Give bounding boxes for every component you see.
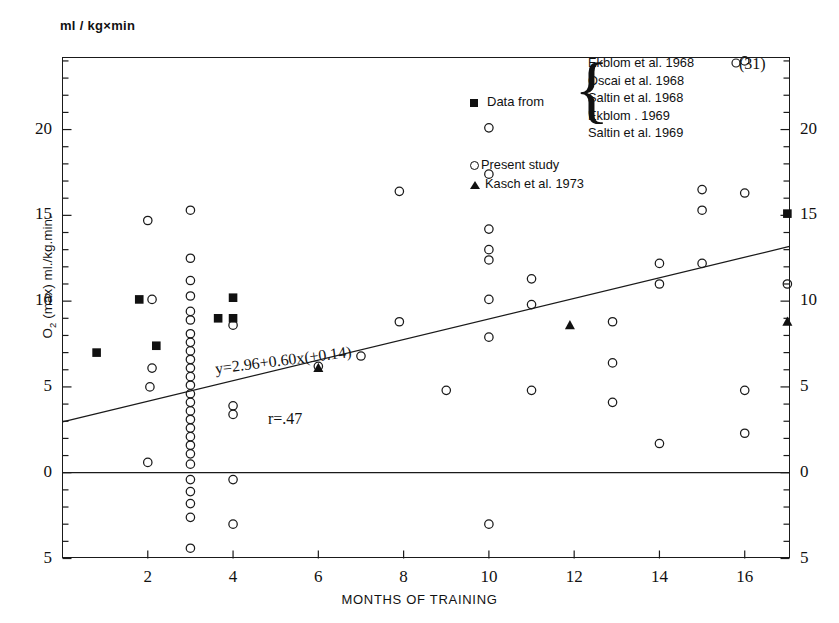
- data-point: [527, 300, 535, 308]
- y-tick-label-left: 5: [18, 548, 52, 568]
- data-point: [698, 259, 706, 267]
- y-tick-label-right: 15: [800, 204, 834, 224]
- data-point: [485, 225, 493, 233]
- y-tick-label-left: 5: [18, 376, 52, 396]
- data-point: [186, 398, 194, 406]
- data-point: [186, 276, 194, 284]
- figure-root: ml / kg×min O2 (max) ml./kg.min. MONTHS …: [0, 0, 839, 623]
- data-point: [148, 295, 156, 303]
- data-point: [655, 439, 663, 447]
- data-point: [186, 499, 194, 507]
- data-point: [698, 185, 706, 193]
- y-tick-label-right: 10: [800, 290, 834, 310]
- data-point: [186, 347, 194, 355]
- y-tick-label-left: 20: [18, 119, 52, 139]
- x-tick-label: 16: [725, 567, 765, 587]
- y-tick-label-right: 5: [800, 548, 834, 568]
- data-point: [135, 295, 144, 304]
- x-tick-label: 14: [639, 567, 679, 587]
- y-tick-label-right: 0: [800, 462, 834, 482]
- data-point: [186, 487, 194, 495]
- data-point: [698, 206, 706, 214]
- data-point: [485, 295, 493, 303]
- data-point: [485, 170, 493, 178]
- data-point: [152, 341, 161, 350]
- x-tick-label: 10: [469, 567, 509, 587]
- axis-ticks: [63, 61, 790, 559]
- data-point: [608, 398, 616, 406]
- x-tick-label: 12: [554, 567, 594, 587]
- data-point: [186, 372, 194, 380]
- data-point: [186, 381, 194, 389]
- data-point: [186, 475, 194, 483]
- x-tick-label: 2: [128, 567, 168, 587]
- data-point: [229, 314, 238, 323]
- data-point: [92, 348, 101, 357]
- y-tick-label-left: 0: [18, 462, 52, 482]
- data-points: [92, 57, 792, 553]
- y-tick-label-right: 5: [800, 376, 834, 396]
- data-point: [186, 307, 194, 315]
- data-point: [186, 330, 194, 338]
- data-point: [485, 245, 493, 253]
- x-tick-label: 6: [298, 567, 338, 587]
- data-point: [485, 256, 493, 264]
- plot-canvas: [0, 0, 839, 623]
- data-point: [741, 386, 749, 394]
- data-point: [186, 415, 194, 423]
- data-point: [186, 450, 194, 458]
- data-point: [186, 316, 194, 324]
- data-point: [186, 206, 194, 214]
- data-point: [485, 333, 493, 341]
- data-point: [565, 320, 575, 329]
- data-point: [485, 520, 493, 528]
- y-tick-label-left: 15: [18, 204, 52, 224]
- data-point: [229, 410, 237, 418]
- data-point: [186, 424, 194, 432]
- data-point: [655, 280, 663, 288]
- data-point: [186, 364, 194, 372]
- data-point: [229, 402, 237, 410]
- data-point: [186, 460, 194, 468]
- data-point: [186, 441, 194, 449]
- data-point: [608, 359, 616, 367]
- data-point: [741, 429, 749, 437]
- data-point: [148, 364, 156, 372]
- data-point: [357, 352, 365, 360]
- data-point: [527, 275, 535, 283]
- data-point: [144, 458, 152, 466]
- x-tick-label: 4: [213, 567, 253, 587]
- data-point: [442, 386, 450, 394]
- data-point: [214, 314, 223, 323]
- data-point: [395, 318, 403, 326]
- data-point: [186, 432, 194, 440]
- data-point: [741, 189, 749, 197]
- y-tick-label-left: 10: [18, 290, 52, 310]
- data-point: [395, 187, 403, 195]
- data-point: [186, 292, 194, 300]
- data-point: [186, 544, 194, 552]
- off-scale-data-point: [732, 59, 740, 67]
- data-point: [146, 383, 154, 391]
- x-tick-label: 8: [384, 567, 424, 587]
- regression-line: [63, 246, 790, 422]
- data-point: [229, 520, 237, 528]
- data-point: [655, 259, 663, 267]
- data-point: [186, 355, 194, 363]
- data-point: [741, 57, 749, 65]
- data-point: [485, 124, 493, 132]
- data-point: [186, 513, 194, 521]
- data-point: [186, 254, 194, 262]
- data-point: [229, 293, 238, 302]
- data-point: [527, 386, 535, 394]
- data-point: [608, 318, 616, 326]
- data-point: [144, 216, 152, 224]
- data-point: [186, 407, 194, 415]
- data-point: [186, 338, 194, 346]
- y-tick-label-right: 20: [800, 119, 834, 139]
- data-point: [229, 475, 237, 483]
- data-point: [783, 209, 792, 218]
